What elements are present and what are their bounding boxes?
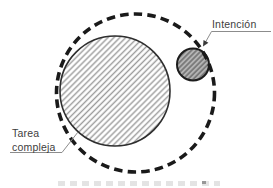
complex-task-label-line1: Tarea <box>12 127 39 139</box>
intention-leader-line <box>205 32 271 44</box>
complex-task-circle <box>60 36 170 146</box>
caption-accent-mark <box>202 181 206 184</box>
cropped-caption-remnant <box>58 181 220 186</box>
figure-page: Intención Tarea compleja <box>0 0 273 188</box>
complex-task-label-line2: compleja <box>12 141 56 153</box>
intention-label: Intención <box>212 18 256 30</box>
venn-diagram: Intención Tarea compleja <box>0 0 273 188</box>
